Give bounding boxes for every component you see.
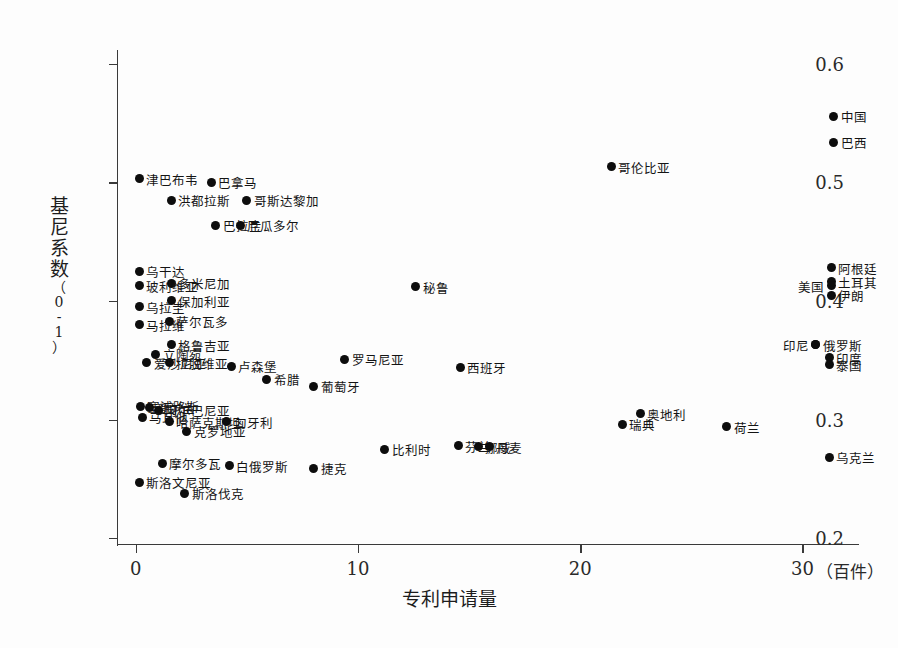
data-point[interactable] [135, 281, 144, 290]
data-point[interactable] [222, 417, 231, 426]
data-point[interactable] [167, 296, 176, 305]
data-point-label: 哥斯达黎加 [254, 191, 319, 210]
x-axis-title: 专利申请量 [0, 584, 898, 611]
data-point[interactable] [136, 402, 145, 411]
data-point[interactable] [158, 459, 167, 468]
data-point[interactable] [411, 282, 420, 291]
data-point[interactable] [135, 478, 144, 487]
data-point[interactable] [607, 162, 616, 171]
data-point-label: 奥地利 [647, 404, 686, 423]
data-point-label: 斯洛文尼亚 [146, 473, 211, 492]
data-point[interactable] [165, 417, 174, 426]
data-point-label: 瑞典 [629, 415, 655, 434]
data-point[interactable] [380, 445, 389, 454]
plot-area: 0.20.30.40.50.60102030（百件）中国巴西哥伦比亚津巴布韦巴拿… [118, 52, 858, 544]
data-point[interactable] [165, 317, 174, 326]
data-point[interactable] [167, 279, 176, 288]
data-point-label: 巴拿马 [218, 173, 257, 192]
x-tick-label-1: 10 [347, 558, 370, 579]
y-axis-unit-char-1: 0 [44, 295, 74, 310]
data-point[interactable] [135, 267, 144, 276]
y-axis-title: 基尼系数（0-1） [44, 196, 74, 355]
data-point-label: 津巴布韦 [146, 169, 198, 188]
data-point[interactable] [827, 281, 836, 290]
y-axis-unit-char-0: （ [44, 280, 74, 295]
data-point-label: 多米尼加 [178, 274, 230, 293]
data-point[interactable] [165, 358, 174, 367]
y-tick-mark-3 [109, 182, 118, 183]
data-point-label: 土耳其 [838, 272, 877, 291]
data-point[interactable] [145, 403, 154, 412]
data-point-label: 比利时 [392, 440, 431, 459]
data-point-label: 厄瓜多尔 [247, 216, 299, 235]
data-point[interactable] [167, 340, 176, 349]
x-tick-mark-0 [136, 544, 137, 553]
data-point-label: 葡萄牙 [321, 377, 360, 396]
data-point-label: 捷克 [321, 459, 347, 478]
x-tick-label-2: 20 [569, 558, 592, 579]
data-point-label: 摩尔多瓦 [169, 454, 221, 473]
data-point[interactable] [236, 221, 245, 230]
data-point-label: 阿尔巴尼亚 [165, 401, 230, 420]
data-point[interactable] [207, 178, 216, 187]
data-point[interactable] [827, 263, 836, 272]
data-point[interactable] [154, 406, 163, 415]
data-point[interactable] [474, 442, 483, 451]
x-tick-mark-2 [580, 544, 581, 553]
data-point[interactable] [722, 422, 731, 431]
data-point-label: 印度 [836, 348, 862, 367]
data-point[interactable] [135, 174, 144, 183]
data-point-label: 巴西 [841, 133, 867, 152]
data-point-label: 保加利亚 [178, 291, 230, 310]
data-point[interactable] [309, 464, 318, 473]
data-point[interactable] [636, 409, 645, 418]
data-point[interactable] [242, 196, 251, 205]
data-point[interactable] [456, 363, 465, 372]
y-tick-mark-0 [109, 538, 118, 539]
y-tick-label-0: 0.2 [815, 528, 844, 549]
data-point[interactable] [211, 221, 220, 230]
data-point-label: 丹麦 [496, 437, 522, 456]
data-point[interactable] [182, 427, 191, 436]
data-point-label: 格鲁吉亚 [178, 335, 230, 354]
data-point[interactable] [227, 362, 236, 371]
data-point-label: 白俄罗斯 [236, 456, 288, 475]
data-point-label: 哥伦比亚 [618, 157, 670, 176]
data-point[interactable] [829, 112, 838, 121]
data-point-label: 拉脱维亚 [176, 353, 228, 372]
data-point-label: 中国 [841, 107, 867, 126]
data-point[interactable] [827, 291, 836, 300]
data-point[interactable] [811, 340, 820, 349]
data-point[interactable] [618, 420, 627, 429]
data-point[interactable] [225, 461, 234, 470]
x-tick-mark-1 [358, 544, 359, 553]
y-tick-mark-2 [109, 301, 118, 302]
data-point-label: 俄罗斯 [823, 335, 862, 354]
data-point-label: 乌克兰 [836, 448, 875, 467]
data-point[interactable] [309, 382, 318, 391]
data-point[interactable] [135, 320, 144, 329]
data-point[interactable] [829, 138, 838, 147]
data-point-label: 洪都拉斯 [178, 191, 230, 210]
data-point[interactable] [262, 375, 271, 384]
data-point[interactable] [454, 441, 463, 450]
data-point[interactable] [825, 453, 834, 462]
data-point-label: 希腊 [274, 370, 300, 389]
data-point[interactable] [142, 358, 151, 367]
y-axis-title-char-3: 数 [44, 259, 74, 280]
data-point-label: 斯洛伐克 [192, 484, 244, 503]
data-point[interactable] [167, 196, 176, 205]
data-point-label: 罗马尼亚 [352, 350, 404, 369]
y-tick-label-1: 0.3 [815, 409, 844, 430]
data-point[interactable] [340, 355, 349, 364]
data-point[interactable] [135, 302, 144, 311]
data-point[interactable] [825, 360, 834, 369]
data-point[interactable] [180, 489, 189, 498]
y-axis-title-char-2: 系 [44, 238, 74, 259]
y-axis-unit-char-2: - [44, 310, 74, 325]
data-point[interactable] [151, 350, 160, 359]
data-point[interactable] [485, 442, 494, 451]
data-point[interactable] [138, 413, 147, 422]
y-axis-title-char-0: 基 [44, 196, 74, 217]
data-point-label: 乌干达 [146, 262, 185, 281]
